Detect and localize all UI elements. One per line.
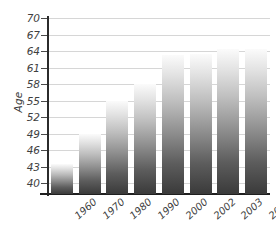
y-axis-tick <box>41 150 47 151</box>
y-axis-tick <box>41 101 47 102</box>
y-axis-tick <box>41 18 47 19</box>
bar-chart: Age 4043464952555861646770 1960197019801… <box>0 0 276 242</box>
y-axis-tick-label: 46 <box>2 144 40 156</box>
bar <box>162 55 184 194</box>
bar <box>134 84 156 194</box>
y-axis-tick-label: 70 <box>2 12 40 24</box>
y-axis-tick-label: 55 <box>2 95 40 107</box>
bar <box>217 49 239 194</box>
bar <box>106 101 128 195</box>
y-axis-tick-label: 40 <box>2 177 40 189</box>
x-axis-tick-label: 2004 <box>267 196 276 221</box>
y-axis-tick <box>41 35 47 36</box>
bar-series <box>48 18 270 194</box>
y-axis-tick <box>41 51 47 52</box>
bar <box>190 54 212 194</box>
y-axis-tick <box>41 134 47 135</box>
x-axis-tick-label: 1960 <box>72 196 98 221</box>
bar <box>51 164 73 194</box>
bar <box>245 49 267 194</box>
y-axis-tick <box>41 84 47 85</box>
y-axis-tick-label: 49 <box>2 128 40 140</box>
y-axis-tick <box>41 183 47 184</box>
y-axis-tick-label: 52 <box>2 111 40 123</box>
y-axis-tick-label: 64 <box>2 45 40 57</box>
y-axis-tick-label: 61 <box>2 62 40 74</box>
x-axis-tick-label: 2002 <box>211 196 237 221</box>
y-axis-tick-label: 43 <box>2 161 40 173</box>
y-axis-tick <box>41 117 47 118</box>
x-axis-tick-label: 1990 <box>156 196 182 221</box>
x-axis-tick-label: 1980 <box>128 196 154 221</box>
x-axis-tick-label: 1970 <box>100 196 126 221</box>
y-axis-tick-label: 58 <box>2 78 40 90</box>
x-axis-tick-label: 2003 <box>239 196 265 221</box>
y-axis-tick <box>41 68 47 69</box>
x-axis-tick-label: 2000 <box>183 196 209 221</box>
y-axis-tick-label: 67 <box>2 29 40 41</box>
x-axis-tick-labels: 19601970198019902000200220032004 <box>0 196 276 242</box>
y-axis-tick <box>41 167 47 168</box>
bar <box>79 134 101 195</box>
